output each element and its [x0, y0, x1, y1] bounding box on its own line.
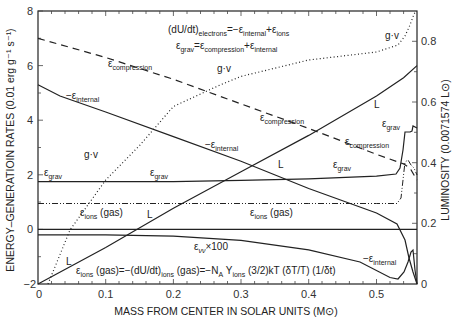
- svg-text:6: 6: [27, 60, 33, 72]
- label-L-2: L: [66, 256, 72, 267]
- label-grav-4: εgrav: [382, 118, 401, 132]
- svg-text:0.4: 0.4: [301, 288, 316, 300]
- svg-text:2: 2: [27, 169, 33, 181]
- label-grav-1: εgrav: [44, 167, 63, 181]
- label-grav-2: εgrav: [150, 167, 169, 181]
- y2-tick-labels: 0 0.2 0.4 0.6 0.8: [421, 35, 436, 290]
- label-L-3: L: [278, 159, 284, 170]
- svg-text:4: 4: [27, 114, 33, 126]
- x-tick-labels: 0 0.1 0.2 0.3 0.4 0.5: [36, 288, 384, 300]
- svg-text:0.2: 0.2: [166, 288, 181, 300]
- y-tick-labels: 8 6 4 2 0 −2: [23, 5, 36, 290]
- label-gv-1: g·v: [84, 149, 98, 160]
- svg-text:0.1: 0.1: [98, 288, 113, 300]
- label-neg-internal-3: −εinternal: [363, 253, 397, 266]
- x-axis-label: MASS FROM CENTER IN SOLAR UNITS (M⊙): [114, 305, 338, 317]
- label-neg-internal-1: −εinternal: [66, 90, 100, 103]
- y2-axis-label: LUMINOSITY (0.0071574 L⊙): [439, 79, 451, 220]
- bottom-ticks: [52, 279, 404, 284]
- top-ticks: [52, 11, 404, 16]
- svg-text:8: 8: [27, 5, 33, 17]
- label-L-1: L: [147, 209, 153, 220]
- annotations: (dU/dt)electrons=−εinternal+εions εgrav=…: [44, 24, 401, 278]
- eq-electrons: (dU/dt)electrons=−εinternal+εions: [168, 24, 290, 37]
- right-ticks: [412, 41, 417, 253]
- svg-text:0.6: 0.6: [421, 96, 436, 108]
- label-L-4: L: [374, 99, 380, 110]
- label-compression-2: εcompression: [260, 112, 304, 126]
- label-ions-gas-2: εions (gas): [250, 207, 293, 220]
- label-ions-gas-1: εions (gas): [80, 207, 123, 220]
- left-ticks: [38, 11, 43, 257]
- svg-text:0.5: 0.5: [369, 288, 384, 300]
- svg-text:0: 0: [27, 223, 33, 235]
- label-grav-3: εgrav: [333, 159, 352, 173]
- svg-text:0.8: 0.8: [421, 35, 436, 47]
- chart-canvas: 8 6 4 2 0 −2 0 0.1 0.2 0.3 0.4 0.5 0 0.2…: [0, 0, 459, 324]
- label-ions-equation: εions (gas)=−(dU/dt)ions (gas)=−NA Yions…: [76, 265, 336, 278]
- eq-grav: εgrav=εcompression+εinternal: [176, 40, 278, 54]
- label-gv-3: g·v: [385, 30, 399, 41]
- svg-text:0.4: 0.4: [421, 157, 436, 169]
- svg-text:0.2: 0.2: [421, 217, 436, 229]
- svg-text:−2: −2: [23, 278, 36, 290]
- label-compression-1: εcompression: [108, 58, 152, 72]
- label-nunu: ενν×100: [194, 241, 228, 254]
- y-axis-label: ENERGY–GENERATIOIN RATES (0.01 erg g⁻¹ s…: [4, 28, 16, 271]
- svg-text:0.3: 0.3: [233, 288, 248, 300]
- label-gv-2: g·v: [217, 63, 231, 74]
- svg-text:0: 0: [421, 278, 427, 290]
- label-compression-3: εcompression: [345, 136, 389, 150]
- svg-text:0: 0: [36, 288, 42, 300]
